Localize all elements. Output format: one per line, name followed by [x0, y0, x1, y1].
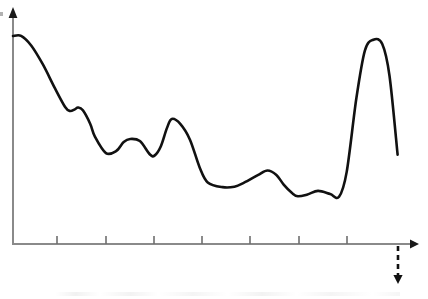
x-axis-arrowhead-icon	[410, 240, 419, 249]
axis-group	[9, 7, 419, 249]
x-axis-ticks	[57, 236, 347, 244]
y-axis-arrowhead-icon	[9, 7, 18, 18]
plot-svg	[0, 0, 428, 299]
figure-canvas	[0, 0, 428, 299]
down-arrow-icon	[393, 275, 402, 284]
data-curve-line	[13, 35, 398, 198]
dashed-descent-arrow	[393, 246, 402, 284]
